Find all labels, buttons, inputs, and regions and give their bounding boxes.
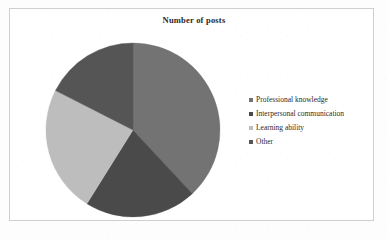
legend-item-label: Interpersonal communication bbox=[256, 110, 344, 118]
pie-chart-svg bbox=[45, 42, 221, 218]
legend-item-learning-ability[interactable]: Learning ability bbox=[249, 121, 384, 135]
legend-item-interpersonal-communication[interactable]: Interpersonal communication bbox=[249, 107, 384, 121]
legend-item-label: Other bbox=[256, 138, 273, 146]
legend-swatch-icon bbox=[249, 140, 253, 144]
chart-title: Number of posts bbox=[0, 15, 388, 25]
legend-swatch-icon bbox=[249, 98, 253, 102]
chart-legend: Professional knowledge Interpersonal com… bbox=[249, 93, 384, 149]
legend-item-other[interactable]: Other bbox=[249, 135, 384, 149]
pie-chart-plot-area bbox=[45, 42, 221, 218]
legend-item-professional-knowledge[interactable]: Professional knowledge bbox=[249, 93, 384, 107]
chart-container: Number of posts Professional knowledge I… bbox=[0, 0, 388, 240]
legend-item-label: Professional knowledge bbox=[256, 96, 328, 104]
legend-swatch-icon bbox=[249, 126, 253, 130]
legend-item-label: Learning ability bbox=[256, 124, 304, 132]
legend-swatch-icon bbox=[249, 112, 253, 116]
